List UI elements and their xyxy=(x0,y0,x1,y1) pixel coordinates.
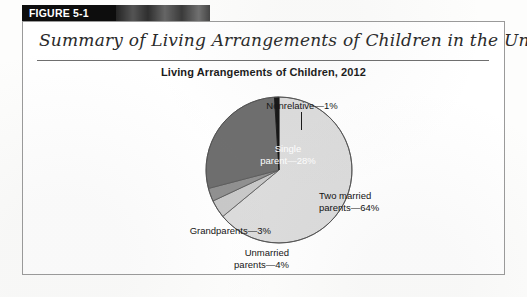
figure-page: FIGURE 5-1 Summary of Living Arrangement… xyxy=(0,0,527,297)
figure-number-label: FIGURE 5-1 xyxy=(22,7,89,19)
figure-number-bar: FIGURE 5-1 xyxy=(22,5,116,21)
pie-label-two-married-line1: Two married xyxy=(319,190,371,201)
pie-label-nonrelative-text: Nonrelative—1% xyxy=(266,100,337,111)
pie-label-two-married-parents: Two married parents—64% xyxy=(319,190,379,213)
pie-label-unmarried-line1: Unmarried xyxy=(245,247,289,258)
pie-label-grandparents-text: Grandparents—3% xyxy=(190,225,271,236)
pie-label-grandparents: Grandparents—3% xyxy=(141,225,271,237)
pie-label-two-married-line2: parents—64% xyxy=(319,202,379,213)
pie-label-unmarried-line2: parents—4% xyxy=(234,259,289,270)
pie-label-unmarried-parents: Unmarried parents—4% xyxy=(171,247,289,270)
nonrelative-leader-line xyxy=(301,112,302,130)
pie-label-nonrelative: Nonrelative—1% xyxy=(227,100,377,112)
pie-chart: Nonrelative—1% Two married parents—64% S… xyxy=(23,22,506,276)
figure-frame: Summary of Living Arrangements of Childr… xyxy=(22,21,505,275)
pie-label-single-parent: Single parent—28% xyxy=(245,143,331,166)
pie-label-single-line2: parent—28% xyxy=(260,155,315,166)
header-bar-smudge xyxy=(116,5,210,21)
pie-svg xyxy=(203,94,355,246)
pie-label-single-line1: Single xyxy=(275,143,301,154)
